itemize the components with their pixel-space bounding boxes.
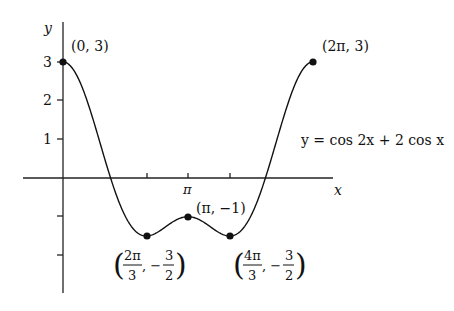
svg-text:): ) — [295, 247, 307, 282]
point-min1 — [143, 232, 150, 239]
y-axis-label: y — [43, 20, 53, 36]
tick-label-pi: π — [182, 182, 192, 197]
point-label-min1: ( 2π 3 , − 3 2 ) — [113, 247, 187, 283]
svg-text:2π: 2π — [124, 248, 141, 263]
point-label-pi: (π, −1) — [196, 200, 246, 216]
svg-text:3: 3 — [285, 248, 293, 263]
point-pi — [184, 213, 191, 220]
svg-text:): ) — [175, 247, 187, 282]
svg-text:, −: , − — [262, 258, 281, 273]
marked-points — [59, 58, 316, 239]
function-graph: y x 3 2 1 π (0, 3) (2π, 3) (π, −1) y = c… — [0, 0, 454, 311]
y-ticks — [57, 62, 63, 255]
svg-text:3: 3 — [128, 268, 136, 283]
svg-text:2: 2 — [285, 268, 293, 283]
tick-label-2: 2 — [43, 92, 52, 108]
point-label-2pi: (2π, 3) — [322, 38, 369, 54]
point-label-origin: (0, 3) — [71, 38, 109, 54]
svg-text:3: 3 — [165, 248, 173, 263]
x-axis-label: x — [334, 182, 342, 198]
svg-text:3: 3 — [248, 268, 256, 283]
point-2pi — [309, 58, 316, 65]
svg-text:, −: , − — [142, 258, 161, 273]
x-ticks — [147, 173, 230, 178]
point-label-min2: ( 4π 3 , − 3 2 ) — [233, 247, 307, 283]
svg-text:2: 2 — [165, 268, 173, 283]
point-min2 — [226, 232, 233, 239]
svg-text:(: ( — [113, 247, 125, 282]
function-curve — [63, 62, 313, 236]
svg-text:4π: 4π — [244, 248, 261, 263]
tick-label-3: 3 — [43, 54, 52, 70]
point-origin — [59, 58, 66, 65]
tick-label-1: 1 — [43, 131, 52, 147]
equation-label: y = cos 2x + 2 cos x — [300, 132, 444, 148]
svg-text:(: ( — [233, 247, 245, 282]
